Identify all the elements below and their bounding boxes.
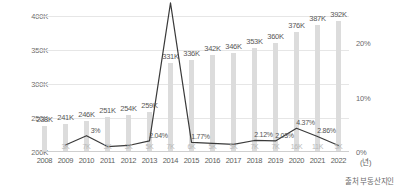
y2-axis-tick-label: 10% (356, 93, 370, 102)
line-value-label: 27.4% (170, 0, 188, 1)
plot-area: 238K241K246K251K254K259K331K336K342K346K… (34, 16, 349, 152)
x-axis-tick-label: 2010 (79, 156, 95, 165)
x-axis-tick-label: 2019 (268, 156, 284, 165)
line-minor-label: 7K (167, 143, 175, 150)
x-axis-tick-label: 2008 (37, 156, 53, 165)
line-value-label: 1.77% (191, 133, 209, 140)
x-axis-tick-label: 2015 (184, 156, 200, 165)
x-axis-tick-label: 2011 (100, 156, 115, 165)
x-axis-tick-label: 2017 (226, 156, 242, 165)
line-minor-label: 6K (188, 143, 196, 150)
line-minor-label: 16K (291, 143, 303, 150)
line-minor-label: 3K (125, 143, 133, 150)
x-axis-tick-label: 2009 (58, 156, 74, 165)
line-minor-label: 5K (230, 143, 238, 150)
line-minor-label: 5K (209, 143, 217, 150)
line-series (34, 16, 349, 152)
x-axis-unit: (년) (360, 156, 371, 167)
x-axis-tick-label: 2016 (205, 156, 221, 165)
x-axis-tick-label: 2012 (121, 156, 137, 165)
x-axis-tick-label: 2018 (247, 156, 263, 165)
line-minor-label: 7K (83, 143, 91, 150)
line-minor-label: 3K (104, 143, 112, 150)
line-minor-label: 3K (62, 143, 70, 150)
x-axis-tick-label: 2022 (331, 156, 347, 165)
line-minor-label: 11K (312, 143, 323, 150)
axis-baseline (34, 151, 349, 152)
x-axis-tick-label: 2013 (142, 156, 158, 165)
line-value-label: 3% (91, 127, 101, 134)
y2-axis-tick-label: 20% (356, 39, 370, 48)
line-minor-label: 5K (146, 143, 154, 150)
line-value-label: 2.03% (275, 132, 293, 139)
x-axis-tick-label: 2021 (310, 156, 326, 165)
line-value-label: 2.86% (317, 127, 335, 134)
line-minor-label: 7K (272, 143, 280, 150)
source-note: 출처 부동산지인 (345, 175, 394, 186)
line-minor-label: 5K (335, 143, 343, 150)
line-value-label: 2.04% (149, 132, 167, 139)
chart-container: 200K250K300K350K400K 0%10%20% 238K241K24… (0, 0, 402, 191)
line-value-label: 4.37% (296, 119, 314, 126)
line-value-label: 2.12% (254, 131, 272, 138)
x-axis-tick-label: 2014 (163, 156, 179, 165)
x-axis-tick-label: 2020 (289, 156, 305, 165)
line-minor-label: 7K (251, 143, 259, 150)
